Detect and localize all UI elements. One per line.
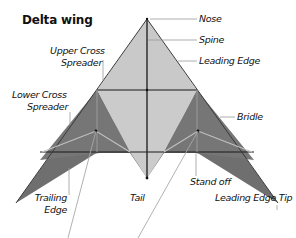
label-stand-off: Stand off	[190, 176, 230, 188]
label-bridle: Bridle	[237, 111, 263, 123]
label-trailing-edge: Trailing Edge	[30, 192, 67, 216]
label-nose: Nose	[199, 13, 222, 25]
label-leading-edge-tip: Leading Edge Tip	[215, 192, 292, 204]
label-lower-cross-spreader: Lower Cross Spreader	[12, 89, 68, 113]
label-leading-edge: Leading Edge	[199, 55, 260, 67]
label-upper-cross-spreader: Upper Cross Spreader	[50, 45, 102, 69]
delta-wing-diagram: Delta wing Nose Spine Leading Edge Upper…	[0, 0, 296, 238]
diagram-title: Delta wing	[22, 13, 93, 27]
label-tail: Tail	[130, 192, 145, 204]
label-spine: Spine	[199, 34, 224, 46]
